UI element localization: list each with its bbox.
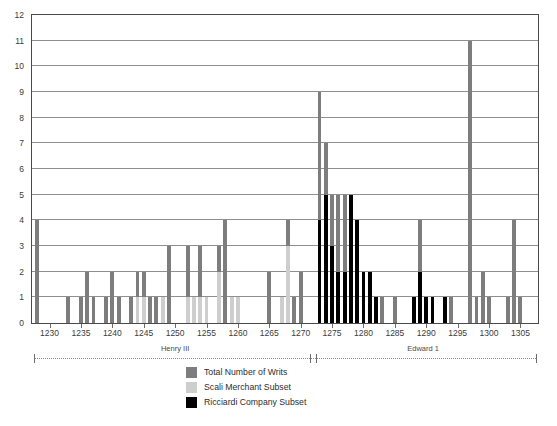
bar-group xyxy=(393,15,397,323)
bar-group xyxy=(487,15,491,323)
bar-group xyxy=(205,15,209,323)
x-axis-tick-label: 1230 xyxy=(40,329,59,338)
bar-ricciardi xyxy=(412,297,416,323)
bar-ricciardi xyxy=(368,272,372,323)
bar-group xyxy=(142,15,146,323)
reign-bracket-band: Henry IIIEdward 1 xyxy=(31,345,539,365)
bar-group xyxy=(355,15,359,323)
reign-label: Henry III xyxy=(161,345,189,353)
bar-total xyxy=(154,297,158,323)
bar-group xyxy=(267,15,271,323)
plot-area xyxy=(31,14,539,324)
bar-total xyxy=(393,297,397,323)
bar-group xyxy=(468,15,472,323)
bar-group xyxy=(286,15,290,323)
bar-group xyxy=(512,15,516,323)
bar-scali xyxy=(286,246,290,323)
bar-group xyxy=(217,15,221,323)
chart-figure: 0123456789101112 12301235124012451250125… xyxy=(0,0,557,426)
x-axis-tick-label: 1285 xyxy=(385,329,404,338)
bar-scali xyxy=(186,297,190,323)
y-axis-tick-label: 6 xyxy=(19,165,24,174)
bar-ricciardi xyxy=(324,195,328,323)
bar-total xyxy=(117,297,121,323)
bar-scali xyxy=(205,297,209,323)
x-axis-tick-label: 1270 xyxy=(291,329,310,338)
bar-group xyxy=(230,15,234,323)
x-axis-tick-label: 1280 xyxy=(354,329,373,338)
y-axis-tick-label: 0 xyxy=(19,319,24,328)
bar-group xyxy=(336,15,340,323)
reign-dotted-line xyxy=(310,358,536,359)
bar-ricciardi xyxy=(349,195,353,323)
bar-scali xyxy=(230,297,234,323)
bar-ricciardi xyxy=(418,272,422,323)
y-axis-tick-labels: 0123456789101112 xyxy=(0,14,28,324)
bar-total xyxy=(475,297,479,323)
reign-bracket-cap xyxy=(34,354,35,363)
bar-group xyxy=(518,15,522,323)
reign-label: Edward 1 xyxy=(407,345,439,353)
bar-ricciardi xyxy=(362,272,366,323)
bar-group xyxy=(424,15,428,323)
x-axis-tick-label: 1245 xyxy=(134,329,153,338)
legend-item: Scali Merchant Subset xyxy=(186,380,306,394)
bar-group xyxy=(92,15,96,323)
bar-group xyxy=(148,15,152,323)
bar-group xyxy=(110,15,114,323)
bar-scali xyxy=(198,297,202,323)
x-axis-tick-label: 1300 xyxy=(480,329,499,338)
bar-total xyxy=(299,272,303,323)
bar-total xyxy=(506,297,510,323)
bar-ricciardi xyxy=(318,220,322,323)
bar-ricciardi xyxy=(431,297,435,323)
bar-group xyxy=(292,15,296,323)
bar-total xyxy=(66,297,70,323)
reign-bracket-cap xyxy=(310,354,311,363)
bar-group xyxy=(236,15,240,323)
bar-total xyxy=(167,246,171,323)
bar-group xyxy=(299,15,303,323)
bar-total xyxy=(79,297,83,323)
bar-ricciardi xyxy=(355,220,359,323)
bar-group xyxy=(431,15,435,323)
bar-series-container xyxy=(32,15,538,323)
bar-group xyxy=(330,15,334,323)
bar-group xyxy=(412,15,416,323)
bar-group xyxy=(481,15,485,323)
y-axis-tick-label: 8 xyxy=(19,113,24,122)
bar-total xyxy=(267,272,271,323)
bar-group xyxy=(280,15,284,323)
bar-group xyxy=(154,15,158,323)
chart-legend: Total Number of WritsScali Merchant Subs… xyxy=(186,365,306,410)
bar-group xyxy=(186,15,190,323)
x-axis-tick-label: 1260 xyxy=(228,329,247,338)
legend-item-label: Ricciardi Company Subset xyxy=(204,398,306,407)
bar-group xyxy=(349,15,353,323)
legend-item-label: Total Number of Writs xyxy=(204,368,287,377)
y-axis-tick-label: 7 xyxy=(19,139,24,148)
bar-total xyxy=(92,297,96,323)
reign-dotted-line xyxy=(34,358,317,359)
x-axis-tick-label: 1290 xyxy=(417,329,436,338)
bar-total xyxy=(110,272,114,323)
bar-group xyxy=(418,15,422,323)
bar-total xyxy=(104,297,108,323)
y-axis-tick-label: 5 xyxy=(19,190,24,199)
x-axis-tick-label: 1275 xyxy=(323,329,342,338)
bar-group xyxy=(161,15,165,323)
bar-group xyxy=(343,15,347,323)
x-axis-tick-label: 1255 xyxy=(197,329,216,338)
bar-group xyxy=(85,15,89,323)
bar-group xyxy=(35,15,39,323)
bar-total xyxy=(487,297,491,323)
x-axis-tick-label: 1240 xyxy=(103,329,122,338)
bar-total xyxy=(481,272,485,323)
bar-group xyxy=(449,15,453,323)
bar-ricciardi xyxy=(330,246,334,323)
legend-item: Ricciardi Company Subset xyxy=(186,395,306,409)
bar-scali xyxy=(142,297,146,323)
legend-swatch-icon xyxy=(186,367,197,378)
bar-group xyxy=(368,15,372,323)
bar-scali xyxy=(217,272,221,323)
